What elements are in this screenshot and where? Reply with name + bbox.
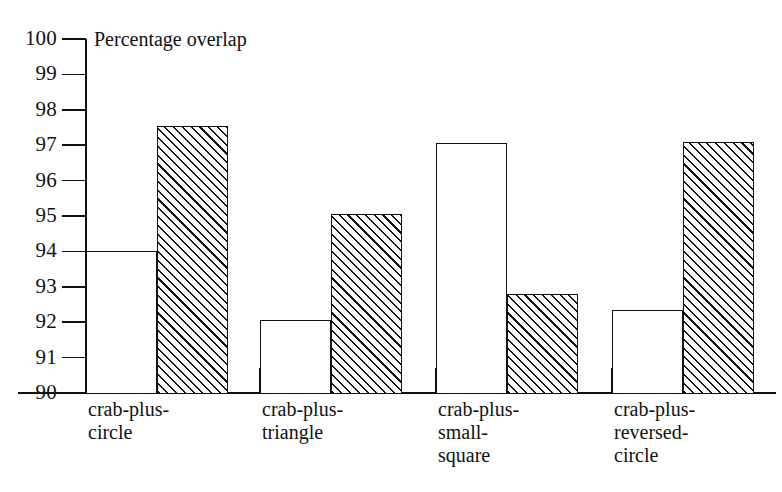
bar-crab-plus-reversed-circle-plain	[612, 310, 683, 393]
y-axis-tick	[62, 251, 86, 253]
x-axis-category-label-line: small-	[438, 421, 519, 444]
y-axis-tick	[62, 392, 86, 394]
y-axis-tick-label: 94	[0, 240, 57, 261]
x-axis-category-label-line: crab-plus-	[614, 398, 695, 421]
bar-crab-plus-triangle-plain	[260, 320, 331, 393]
x-axis-category-label-line: triangle	[262, 421, 343, 444]
x-axis-category-label-line: crab-plus-	[438, 398, 519, 421]
x-axis-category-label: crab-plus-circle	[88, 398, 169, 444]
y-axis-tick-label: 90	[0, 382, 57, 403]
y-axis-tick-label: 91	[0, 347, 57, 368]
y-axis-tick-label: 96	[0, 170, 57, 191]
y-axis-tick	[62, 215, 86, 217]
x-axis-category-label-line: square	[438, 444, 519, 467]
y-axis-tick-label: 92	[0, 311, 57, 332]
x-axis-category-label: crab-plus-triangle	[262, 398, 343, 444]
bar-chart: Percentage overlap 100999897969594939291…	[0, 0, 782, 492]
y-axis-tick	[62, 38, 86, 40]
bar-crab-plus-triangle-hatched	[331, 214, 402, 393]
y-axis-tick	[62, 321, 86, 323]
x-axis-category-label-line: crab-plus-	[262, 398, 343, 421]
x-axis-category-label-line: crab-plus-	[88, 398, 169, 421]
y-axis-tick-label: 98	[0, 99, 57, 120]
x-axis-category-label-line: reversed-	[614, 421, 695, 444]
x-axis-category-label: crab-plus-reversed-circle	[614, 398, 695, 467]
y-axis-tick-label: 93	[0, 276, 57, 297]
y-axis-tick-label: 95	[0, 205, 57, 226]
bar-crab-plus-small-square-plain	[436, 143, 507, 393]
bar-crab-plus-reversed-circle-hatched	[683, 142, 754, 393]
y-axis-tick-label: 100	[0, 28, 57, 49]
y-axis-tick	[62, 109, 86, 111]
y-axis-tick	[62, 180, 86, 182]
y-axis-tick	[62, 74, 86, 76]
y-axis-tick-label: 97	[0, 134, 57, 155]
x-axis-category-label-line: circle	[88, 421, 169, 444]
chart-title: Percentage overlap	[94, 28, 247, 50]
y-axis-tick-label: 99	[0, 63, 57, 84]
bar-crab-plus-circle-plain	[86, 251, 157, 393]
x-axis-category-label-line: circle	[614, 444, 695, 467]
x-axis-category-label: crab-plus-small-square	[438, 398, 519, 467]
y-axis-tick	[62, 144, 86, 146]
bar-crab-plus-small-square-hatched	[507, 294, 578, 393]
y-axis-tick	[62, 357, 86, 359]
bar-crab-plus-circle-hatched	[157, 126, 228, 393]
y-axis-tick	[62, 286, 86, 288]
